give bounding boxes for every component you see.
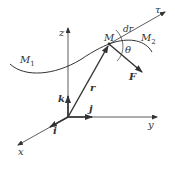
k-label: k [58, 94, 65, 104]
M1-label: M1 [20, 55, 35, 68]
z-axis-label: z [59, 28, 64, 38]
F-label: F [129, 72, 136, 82]
diagram-svg [0, 0, 175, 169]
theta-label: θ [125, 45, 131, 55]
dr-label: dr [123, 25, 133, 34]
force-work-diagram: z y x k j i r F dr τ θ M M1 M2 [0, 0, 175, 169]
i-label: i [53, 126, 57, 136]
x-axis-label: x [18, 147, 24, 157]
tau-label: τ [155, 5, 161, 15]
M-label: M [104, 33, 114, 43]
j-label: j [89, 104, 93, 114]
theta-arc [116, 30, 123, 61]
tau-tangent [109, 12, 165, 44]
y-axis-label: y [148, 120, 154, 130]
M2-label: M2 [141, 33, 156, 46]
r-vector [68, 46, 108, 117]
r-label: r [90, 83, 95, 93]
